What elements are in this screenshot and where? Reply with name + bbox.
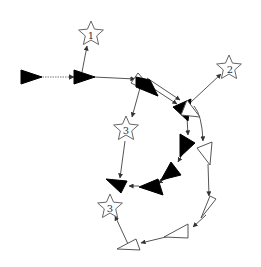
triangle-node-t8[interactable] [139, 179, 163, 195]
triangle-node-t2[interactable] [136, 77, 158, 96]
star-node-s3a[interactable]: 3 [114, 116, 139, 140]
triangle-node-t10[interactable] [201, 196, 216, 218]
triangle-node-t1[interactable] [74, 70, 95, 84]
graph-canvas: 1 2 3 3 [0, 0, 261, 267]
triangle-node-t5[interactable] [180, 134, 195, 157]
triangle-node-t9[interactable] [106, 179, 127, 193]
edge-t1-t2 [94, 77, 135, 79]
edge-t10-t11 [193, 215, 206, 227]
edge-s3a-t9 [120, 141, 125, 178]
star-node-s3b[interactable]: 3 [98, 194, 123, 218]
edges [40, 46, 221, 244]
edge-t6-t10 [208, 164, 209, 196]
triangle-node-t12[interactable] [117, 239, 140, 250]
edge-t1-s1 [82, 46, 87, 72]
star-node-s1[interactable]: 1 [79, 21, 104, 45]
triangle-node-t0[interactable] [21, 70, 42, 84]
triangle-node-t6[interactable] [197, 142, 212, 165]
edge-t4-s2 [190, 74, 221, 103]
triangle-node-t7[interactable] [161, 162, 181, 180]
edge-t2-s3a [132, 88, 140, 117]
star-label: 2 [227, 64, 233, 75]
edge-t12-s3b [115, 216, 128, 244]
star-label: 3 [107, 203, 113, 214]
triangle-node-t11[interactable] [164, 224, 188, 238]
star-label: 1 [88, 30, 94, 41]
star-label: 3 [123, 125, 129, 136]
